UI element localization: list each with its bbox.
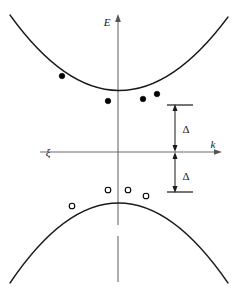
- wavevector-axis-label: k: [211, 138, 217, 150]
- fermi-level-label: ξ: [46, 146, 51, 159]
- gap-upper-arrowhead-bottom: [173, 145, 178, 152]
- gap-upper-label: Δ: [182, 123, 189, 135]
- hole-marker: [143, 193, 149, 199]
- band-diagram-figure: E k ξ Δ Δ: [0, 0, 240, 300]
- band-diagram-canvas: E k ξ Δ Δ: [0, 0, 240, 300]
- valence-band-curve: [10, 203, 228, 283]
- gap-lower-arrowhead-top: [173, 152, 178, 159]
- gap-annotation-upper: Δ: [167, 104, 193, 152]
- electron-marker: [140, 96, 146, 102]
- electron-marker: [154, 91, 160, 97]
- energy-axis-arrowhead: [115, 14, 121, 22]
- gap-annotation-lower: Δ: [167, 152, 193, 193]
- wavevector-axis-arrowhead: [214, 149, 222, 155]
- conduction-band-curve: [10, 15, 228, 91]
- electron-marker: [105, 98, 111, 104]
- energy-axis-label: E: [103, 16, 111, 28]
- hole-marker: [125, 187, 131, 193]
- electron-marker: [59, 73, 65, 79]
- hole-marker: [105, 187, 111, 193]
- gap-lower-label: Δ: [182, 170, 189, 182]
- hole-marker: [69, 203, 75, 209]
- band-curves-group: [10, 15, 228, 283]
